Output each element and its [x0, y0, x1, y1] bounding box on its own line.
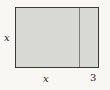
divider-line	[79, 8, 80, 67]
width-label-x: x	[43, 74, 49, 84]
height-label: x	[4, 33, 10, 43]
width-label-3: 3	[90, 73, 96, 83]
geometry-figure: x x 3	[0, 0, 110, 90]
outer-rectangle	[15, 7, 99, 68]
